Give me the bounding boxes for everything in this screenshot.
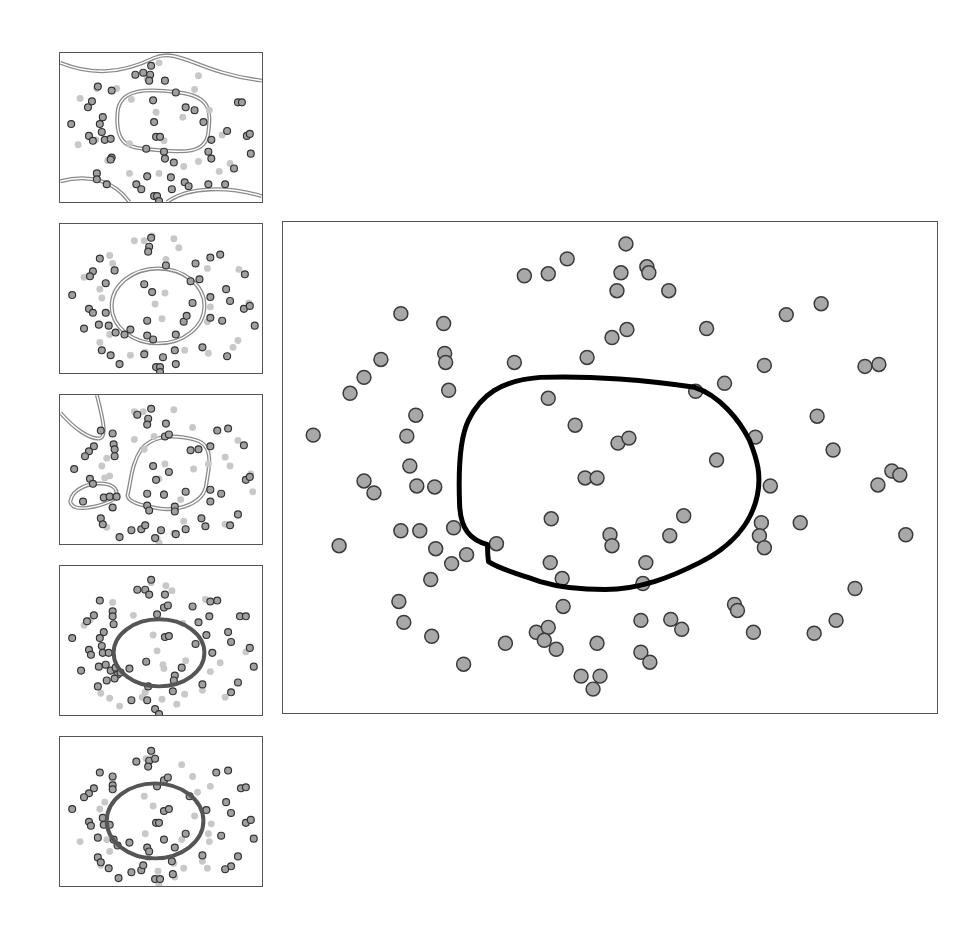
data-point <box>593 669 607 683</box>
data-point <box>643 655 657 669</box>
data-point <box>590 636 604 650</box>
faded-points <box>81 232 253 358</box>
data-point <box>610 284 624 298</box>
data-point <box>700 322 714 336</box>
data-point <box>893 468 907 482</box>
data-point <box>394 307 408 321</box>
thumbnail-panel-4 <box>59 565 263 716</box>
data-point <box>757 541 771 555</box>
data-point <box>662 284 676 298</box>
data-point <box>498 636 512 650</box>
data-point <box>639 556 653 570</box>
scatter-plot-4 <box>60 566 262 715</box>
scatter-plot-2 <box>60 224 262 373</box>
data-point <box>619 237 633 251</box>
decision-boundary <box>60 55 261 202</box>
data-point <box>306 428 320 442</box>
data-point <box>586 682 600 696</box>
data-point <box>403 459 417 473</box>
data-points <box>69 576 257 715</box>
data-point <box>829 613 843 627</box>
data-point <box>710 453 724 467</box>
data-point <box>537 633 551 647</box>
data-point <box>374 352 388 366</box>
data-point <box>437 317 451 331</box>
data-point <box>807 626 821 640</box>
main-scatter-plot <box>283 222 937 713</box>
data-point <box>541 267 555 281</box>
data-point <box>392 594 406 608</box>
data-point <box>642 266 656 280</box>
data-point <box>447 521 461 535</box>
data-point <box>746 625 760 639</box>
data-point <box>871 478 885 492</box>
data-point <box>622 431 636 445</box>
data-point <box>614 266 628 280</box>
data-point <box>541 620 555 634</box>
data-point <box>489 537 503 551</box>
data-point <box>590 471 604 485</box>
data-point <box>814 297 828 311</box>
thumbnail-panel-2 <box>59 223 263 374</box>
data-point <box>409 408 423 422</box>
data-point <box>664 612 678 626</box>
data-point <box>541 391 555 405</box>
decision-boundary <box>459 377 759 590</box>
data-point <box>677 509 691 523</box>
thumbnail-panel-5 <box>59 736 263 887</box>
faded-points <box>81 579 250 709</box>
data-point <box>400 429 414 443</box>
data-point <box>675 622 689 636</box>
data-point <box>826 443 840 457</box>
scatter-plot-1 <box>60 53 262 202</box>
data-point <box>543 556 557 570</box>
data-point <box>357 370 371 384</box>
data-point <box>810 409 824 423</box>
data-point <box>568 418 582 432</box>
data-point <box>574 669 588 683</box>
data-point <box>549 642 563 656</box>
data-point <box>858 359 872 373</box>
data-point <box>442 383 456 397</box>
data-point <box>763 479 777 493</box>
data-point <box>457 657 471 671</box>
data-point <box>848 582 862 596</box>
data-point <box>731 603 745 617</box>
data-point <box>793 516 807 530</box>
data-point <box>544 512 558 526</box>
data-point <box>605 331 619 345</box>
data-points <box>68 62 254 202</box>
data-point <box>429 542 443 556</box>
data-point <box>367 486 381 500</box>
data-point <box>410 479 424 493</box>
data-point <box>556 599 570 613</box>
data-point <box>757 358 771 372</box>
data-point <box>517 269 531 283</box>
data-point <box>779 308 793 322</box>
data-point <box>428 480 442 494</box>
data-point <box>332 539 346 553</box>
data-point <box>507 355 521 369</box>
data-point <box>663 529 677 543</box>
data-point <box>357 474 371 488</box>
data-point <box>620 323 634 337</box>
data-point <box>605 539 619 553</box>
data-point <box>899 528 913 542</box>
data-points <box>306 237 913 696</box>
data-point <box>634 613 648 627</box>
data-point <box>754 516 768 530</box>
data-point <box>425 629 439 643</box>
data-point <box>397 615 411 629</box>
data-point <box>439 355 453 369</box>
thumbnail-panel-1 <box>59 52 263 203</box>
data-point <box>580 350 594 364</box>
data-point <box>560 252 574 266</box>
data-point <box>413 524 427 538</box>
data-points <box>69 747 257 882</box>
data-point <box>460 548 474 562</box>
data-points <box>69 234 258 373</box>
data-point <box>424 573 438 587</box>
thumbnail-panel-3 <box>59 394 263 545</box>
data-point <box>394 524 408 538</box>
data-point <box>872 357 886 371</box>
